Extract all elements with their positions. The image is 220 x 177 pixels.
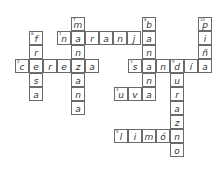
cell-letter: u bbox=[171, 75, 183, 87]
crossword-cell[interactable]: ñ bbox=[198, 45, 212, 59]
cell-letter: a bbox=[143, 89, 155, 101]
cell-letter: e bbox=[58, 61, 70, 73]
cell-letter: d bbox=[171, 61, 183, 73]
crossword-cell[interactable]: ó bbox=[156, 129, 170, 143]
cell-letter: z bbox=[72, 61, 84, 73]
crossword-cell[interactable]: r bbox=[85, 31, 99, 45]
cell-letter: m bbox=[72, 19, 84, 31]
crossword-cell[interactable]: s bbox=[29, 73, 43, 87]
cell-letter: i bbox=[199, 33, 211, 45]
crossword-cell[interactable]: r bbox=[43, 59, 57, 73]
crossword-cell[interactable]: n bbox=[142, 45, 156, 59]
crossword-cell[interactable]: 1n bbox=[57, 31, 71, 45]
crossword-cell[interactable]: 9d bbox=[170, 59, 184, 73]
crossword-cell[interactable]: a bbox=[170, 101, 184, 115]
cell-letter: a bbox=[30, 89, 42, 101]
crossword-cell[interactable]: e bbox=[29, 59, 43, 73]
crossword-cell[interactable]: 2c bbox=[15, 59, 29, 73]
cell-letter: n bbox=[114, 33, 126, 45]
cell-letter: n bbox=[72, 47, 84, 59]
cell-letter: n bbox=[171, 131, 183, 143]
cell-letter: a bbox=[72, 33, 84, 45]
cell-letter: r bbox=[171, 89, 183, 101]
cell-letter: o bbox=[171, 145, 183, 157]
cell-letter: u bbox=[115, 89, 127, 101]
cell-letter: v bbox=[129, 89, 141, 101]
cell-letter: m bbox=[143, 131, 155, 143]
cell-letter: a bbox=[171, 103, 183, 115]
crossword-cell[interactable]: i bbox=[128, 129, 142, 143]
crossword-cell[interactable]: 8b bbox=[142, 17, 156, 31]
crossword-cell[interactable]: a bbox=[99, 31, 113, 45]
crossword-cell[interactable]: u bbox=[170, 73, 184, 87]
crossword-cell[interactable]: r bbox=[29, 45, 43, 59]
crossword-cell[interactable]: n bbox=[71, 87, 85, 101]
cell-letter: b bbox=[143, 19, 155, 31]
crossword-cell[interactable]: 6f bbox=[29, 31, 43, 45]
cell-letter: í bbox=[185, 61, 197, 73]
crossword-cell[interactable]: n bbox=[170, 129, 184, 143]
crossword-cell[interactable]: n bbox=[156, 59, 170, 73]
cell-letter: s bbox=[30, 75, 42, 87]
cell-letter: n bbox=[157, 61, 169, 73]
cell-letter: l bbox=[115, 131, 127, 143]
crossword-cell[interactable]: a bbox=[142, 87, 156, 101]
cell-letter: e bbox=[30, 61, 42, 73]
cell-letter: ó bbox=[157, 131, 169, 143]
cell-letter: r bbox=[44, 61, 56, 73]
cell-letter: j bbox=[128, 33, 140, 45]
crossword-cell[interactable]: v bbox=[128, 87, 142, 101]
crossword-cell[interactable]: m bbox=[142, 129, 156, 143]
cell-letter: a bbox=[143, 33, 155, 45]
crossword-cell[interactable]: a bbox=[142, 31, 156, 45]
crossword-cell[interactable]: a bbox=[29, 87, 43, 101]
cell-letter: c bbox=[16, 61, 28, 73]
crossword-cell[interactable]: 5l bbox=[114, 129, 128, 143]
cell-letter: z bbox=[171, 117, 183, 129]
crossword-cell[interactable]: r bbox=[170, 87, 184, 101]
crossword-grid: 7m8b10p6f1naranjairnnñ2cereza3san9díasan… bbox=[0, 0, 220, 177]
crossword-cell[interactable]: í bbox=[184, 59, 198, 73]
cell-letter: a bbox=[199, 61, 211, 73]
crossword-cell[interactable]: 7m bbox=[71, 17, 85, 31]
crossword-cell[interactable]: z bbox=[170, 115, 184, 129]
cell-letter: f bbox=[30, 33, 42, 45]
crossword-cell[interactable]: o bbox=[170, 143, 184, 157]
cell-letter: a bbox=[86, 61, 98, 73]
crossword-cell[interactable]: n bbox=[113, 31, 127, 45]
cell-letter: r bbox=[30, 47, 42, 59]
cell-letter: a bbox=[72, 103, 84, 115]
cell-letter: i bbox=[129, 131, 141, 143]
crossword-cell[interactable]: a bbox=[198, 59, 212, 73]
crossword-cell[interactable]: 4u bbox=[114, 87, 128, 101]
cell-letter: n bbox=[143, 75, 155, 87]
cell-letter: s bbox=[129, 61, 141, 73]
crossword-cell[interactable]: a bbox=[71, 31, 85, 45]
crossword-cell[interactable]: a bbox=[71, 73, 85, 87]
cell-letter: n bbox=[143, 47, 155, 59]
cell-letter: a bbox=[143, 61, 155, 73]
cell-letter: ñ bbox=[199, 47, 211, 59]
cell-letter: p bbox=[199, 19, 211, 31]
crossword-cell[interactable]: a bbox=[85, 59, 99, 73]
crossword-cell[interactable]: 10p bbox=[198, 17, 212, 31]
crossword-cell[interactable]: n bbox=[71, 45, 85, 59]
crossword-cell[interactable]: a bbox=[71, 101, 85, 115]
cell-letter: n bbox=[72, 89, 84, 101]
crossword-cell[interactable]: n bbox=[142, 73, 156, 87]
cell-letter: r bbox=[86, 33, 98, 45]
crossword-cell[interactable]: j bbox=[127, 31, 141, 45]
crossword-cell[interactable]: a bbox=[142, 59, 156, 73]
crossword-cell[interactable]: i bbox=[198, 31, 212, 45]
cell-letter: a bbox=[72, 75, 84, 87]
crossword-cell[interactable]: z bbox=[71, 59, 85, 73]
crossword-cell[interactable]: e bbox=[57, 59, 71, 73]
cell-letter: n bbox=[58, 33, 70, 45]
crossword-cell[interactable]: 3s bbox=[128, 59, 142, 73]
cell-letter: a bbox=[100, 33, 112, 45]
